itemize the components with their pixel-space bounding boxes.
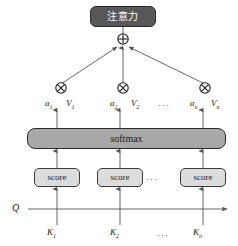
attention-diagram: 注意力 softmax score score score ··· a1 V1 … — [0, 0, 238, 246]
score-box-label: score — [48, 173, 67, 182]
key-row-ellipsis: ··· — [157, 231, 169, 240]
score-box-3: score — [180, 168, 226, 187]
key-label-2: K2 — [110, 228, 119, 239]
circle-plus-icon — [118, 34, 128, 44]
attention-output-box: 注意力 — [90, 6, 156, 27]
key-label-1: K1 — [47, 228, 56, 239]
value-label-1: V1 — [66, 99, 75, 110]
score-box-label: score — [111, 173, 130, 182]
circle-times-icon-2 — [118, 83, 128, 93]
value-label-n: Vn — [211, 99, 220, 110]
softmax-label: softmax — [110, 134, 142, 144]
weight-label-1: a1 — [45, 99, 53, 110]
softmax-layer: softmax — [27, 128, 226, 149]
key-label-n: Kn — [193, 228, 202, 239]
circle-times-icon-1 — [56, 83, 66, 93]
score-row-ellipsis: ··· — [146, 175, 158, 184]
score-box-label: score — [194, 173, 213, 182]
weight-label-n: an — [190, 99, 198, 110]
diagram-connectors — [0, 0, 238, 246]
weight-label-2: a2 — [110, 99, 118, 110]
weight-row-ellipsis: ··· — [158, 101, 170, 110]
query-label: Q — [12, 203, 19, 213]
attention-output-label: 注意力 — [107, 12, 138, 22]
value-label-2: V2 — [131, 99, 140, 110]
circle-times-icon-3 — [200, 83, 210, 93]
score-box-1: score — [34, 168, 80, 187]
score-box-2: score — [97, 168, 143, 187]
